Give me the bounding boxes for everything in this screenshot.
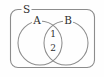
venn-diagram-canvas: S A B 1 2 [0, 0, 104, 77]
set-a-label: A [32, 14, 41, 26]
set-b-label: B [64, 14, 72, 26]
rect-top-left-segment [11, 10, 23, 18]
intersection-item-1: 1 [50, 29, 56, 39]
universal-set-label: S [23, 3, 30, 15]
intersection-item-2: 2 [50, 43, 56, 53]
venn-diagram-figure: S A B 1 2 [0, 0, 104, 77]
